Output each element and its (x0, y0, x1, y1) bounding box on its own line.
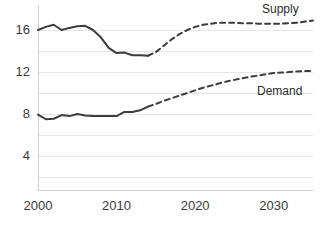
axis-lines (38, 6, 313, 190)
line-chart: 16 12 8 4 2000 2010 2020 2030 Supply Dem… (0, 0, 323, 228)
gridlines (38, 30, 313, 177)
series-label-supply: Supply (262, 2, 299, 16)
y-axis-tick-label: 12 (2, 64, 30, 79)
y-axis-tick-label: 8 (2, 106, 30, 121)
series-label-demand: Demand (257, 84, 302, 98)
x-axis-tick-label: 2010 (92, 198, 142, 213)
series-lines (38, 21, 313, 120)
x-axis-tick-label: 2030 (249, 198, 299, 213)
plot-area (0, 0, 323, 228)
x-axis-tick-label: 2020 (170, 198, 220, 213)
x-axis-tick-label: 2000 (13, 198, 63, 213)
y-axis-tick-label: 4 (2, 148, 30, 163)
y-axis-tick-label: 16 (2, 22, 30, 37)
